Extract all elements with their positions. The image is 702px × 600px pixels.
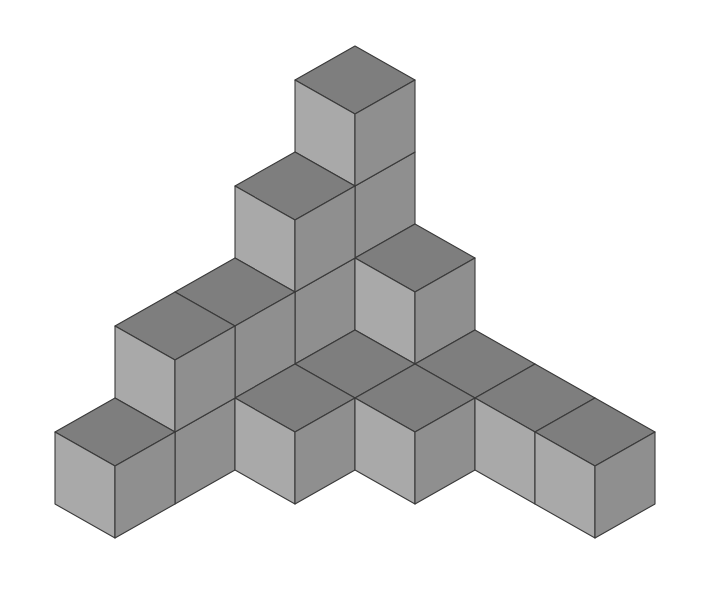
isometric-cubes-canvas [0,0,702,600]
cube-diagram [0,0,702,600]
